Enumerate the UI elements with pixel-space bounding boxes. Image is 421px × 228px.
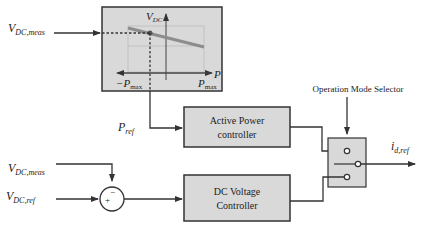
switch-common-contact xyxy=(355,161,360,166)
summing-junction: + − xyxy=(100,187,124,211)
operation-mode-selector-label: Operation Mode Selector xyxy=(313,84,404,94)
vdc-meas-to-sum xyxy=(56,164,112,181)
droop-control-diagram: VDC P −Pmax Pmax VDC,meas Pref Active Po… xyxy=(0,0,421,228)
active-power-line2: controller xyxy=(218,129,258,140)
vdc-meas-input-label: VDC,meas xyxy=(8,21,45,37)
pref-signal xyxy=(150,91,182,128)
active-power-controller-block: Active Power controller xyxy=(184,107,290,147)
dc-voltage-line2: Controller xyxy=(216,200,258,211)
dc-voltage-line1: DC Voltage xyxy=(214,186,261,197)
active-power-line1: Active Power xyxy=(210,115,265,126)
switch-contact-dc-voltage xyxy=(344,174,349,179)
dc-voltage-controller-block: DC Voltage Controller xyxy=(184,175,290,221)
vdc-meas-bottom-label: VDC,meas xyxy=(8,161,45,177)
switch-contact-active-power xyxy=(344,148,349,153)
minus-sign: − xyxy=(110,187,115,197)
operation-mode-selector[interactable] xyxy=(328,138,366,187)
p-axis-label: P xyxy=(213,68,221,80)
vdc-ref-label: VDC,ref xyxy=(6,189,37,205)
pref-label: Pref xyxy=(117,120,136,136)
output-label: id,ref xyxy=(391,139,411,155)
